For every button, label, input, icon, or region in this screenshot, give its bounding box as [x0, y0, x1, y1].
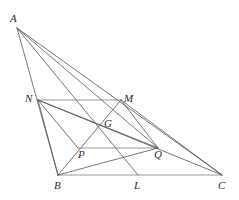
segment-MB — [58, 100, 121, 175]
segment-MC — [121, 100, 222, 175]
figure-canvas — [0, 0, 239, 200]
vertex-label-Q: Q — [154, 149, 162, 160]
vertex-label-N: N — [25, 93, 32, 104]
geometry-figure: A B C N M G P Q L — [0, 0, 239, 200]
segment-BQ — [58, 148, 158, 175]
segment-AQ — [17, 28, 158, 148]
vertex-label-P: P — [78, 149, 85, 160]
vertex-label-C: C — [218, 180, 225, 191]
segment-NB — [38, 100, 58, 175]
vertex-label-L: L — [134, 180, 140, 191]
vertex-label-A: A — [10, 13, 17, 24]
segments-layer — [17, 28, 222, 175]
vertex-label-G: G — [104, 118, 112, 129]
vertex-label-M: M — [124, 93, 133, 104]
vertex-label-B: B — [54, 180, 61, 191]
